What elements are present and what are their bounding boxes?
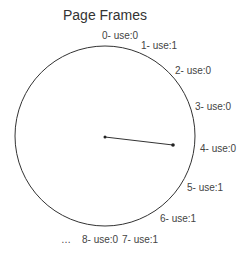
frame-label-4: 4- use:0 xyxy=(200,143,237,154)
diagram-title: Page Frames xyxy=(63,7,147,23)
frame-label-1: 1- use:1 xyxy=(141,40,178,51)
frame-label-8: 8- use:0 xyxy=(82,234,119,245)
clock-diagram-svg: Page Frames 0- use:0 1- use:1 2- use:0 3… xyxy=(0,0,238,254)
page-frames-diagram: Page Frames 0- use:0 1- use:1 2- use:0 3… xyxy=(0,0,238,254)
frame-label-5: 5- use:1 xyxy=(187,182,224,193)
pointer-tip-dot xyxy=(171,143,175,147)
frame-label-0: 0- use:0 xyxy=(102,30,139,41)
frame-labels: 0- use:0 1- use:1 2- use:0 3- use:0 4- u… xyxy=(61,30,237,245)
frame-label-6: 6- use:1 xyxy=(160,213,197,224)
ellipsis-more-frames: … xyxy=(61,234,71,245)
frame-label-3: 3- use:0 xyxy=(195,101,232,112)
clock-hand-pointer xyxy=(105,137,173,145)
frame-label-2: 2- use:0 xyxy=(175,65,212,76)
pointer-origin-dot xyxy=(104,136,107,139)
frame-label-7: 7- use:1 xyxy=(122,234,159,245)
